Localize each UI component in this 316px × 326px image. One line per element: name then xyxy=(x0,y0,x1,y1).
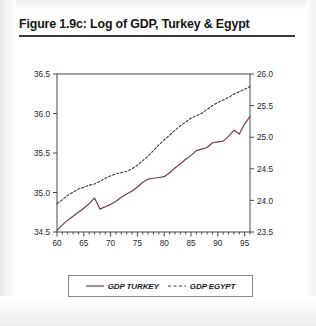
left-axis: 34.535.035.536.036.5 xyxy=(34,70,57,237)
right-axis-tick-label: 25.0 xyxy=(257,133,273,142)
bottom-axis: 6065707580859095 xyxy=(52,232,250,248)
left-axis-tick-label: 34.5 xyxy=(34,228,50,237)
chart-figure: 34.535.035.536.036.5 23.524.024.525.025.… xyxy=(0,55,316,265)
legend-swatch-dashed-icon xyxy=(168,283,186,289)
right-axis-tick-label: 26.0 xyxy=(257,70,273,79)
x-axis-tick-label: 75 xyxy=(133,239,143,248)
legend-swatch-solid-icon xyxy=(86,283,104,289)
plot-frame xyxy=(57,74,250,232)
line-chart: 34.535.035.536.036.5 23.524.024.525.025.… xyxy=(0,55,316,265)
left-axis-tick-label: 35.0 xyxy=(34,189,50,198)
legend-label-egypt: GDP EGYPT xyxy=(190,282,235,291)
chart-legend: GDP TURKEY GDP EGYPT xyxy=(68,275,253,297)
x-axis-tick-label: 70 xyxy=(106,239,116,248)
left-axis-tick-label: 36.5 xyxy=(34,70,50,79)
legend-item-turkey: GDP TURKEY xyxy=(86,282,159,291)
page-edge-bottom xyxy=(0,296,316,326)
right-axis-tick-label: 24.0 xyxy=(257,197,273,206)
page-title: Figure 1.9c: Log of GDP, Turkey & Egypt xyxy=(19,17,295,32)
page-edge-top xyxy=(0,0,316,10)
left-axis-tick-label: 35.5 xyxy=(34,149,50,158)
title-divider xyxy=(19,35,295,37)
legend-label-turkey: GDP TURKEY xyxy=(108,282,159,291)
x-axis-tick-label: 85 xyxy=(186,239,196,248)
right-axis-tick-label: 23.5 xyxy=(257,228,273,237)
x-axis-tick-label: 80 xyxy=(160,239,170,248)
left-axis-tick-label: 36.0 xyxy=(34,110,50,119)
x-axis-tick-label: 65 xyxy=(79,239,89,248)
scanned-page: Figure 1.9c: Log of GDP, Turkey & Egypt … xyxy=(0,0,316,326)
x-axis-tick-label: 95 xyxy=(240,239,250,248)
x-axis-tick-label: 60 xyxy=(52,239,62,248)
legend-item-egypt: GDP EGYPT xyxy=(168,282,235,291)
right-axis-tick-label: 25.5 xyxy=(257,102,273,111)
right-axis: 23.524.024.525.025.526.0 xyxy=(250,70,273,237)
x-axis-tick-label: 90 xyxy=(213,239,223,248)
figure-title-block: Figure 1.9c: Log of GDP, Turkey & Egypt xyxy=(19,17,295,37)
right-axis-tick-label: 24.5 xyxy=(257,165,273,174)
